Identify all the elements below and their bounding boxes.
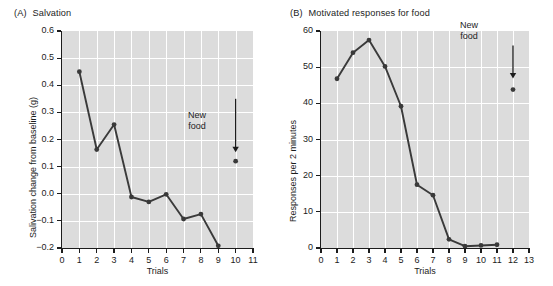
y-axis-tick [316, 67, 320, 68]
y-axis-tick [57, 193, 61, 194]
y-axis-tick [316, 103, 320, 104]
data-point-marker [129, 195, 134, 200]
y-axis-tick [57, 58, 61, 59]
y-axis-tick-label: 0.5 [16, 52, 54, 62]
new-food-data-point [511, 87, 516, 92]
y-axis-tick [316, 30, 320, 31]
figure-root: (A)Salvation Salivation change from base… [0, 0, 553, 286]
data-point-marker [77, 69, 82, 74]
panel-a-tag: (A) [14, 8, 27, 18]
x-axis-tick-label: 13 [518, 255, 540, 265]
data-point-marker [351, 50, 356, 55]
data-point-marker [415, 182, 420, 187]
series-line [337, 40, 497, 246]
y-axis-tick [57, 220, 61, 221]
x-axis-tick [448, 249, 449, 253]
x-axis-tick [496, 249, 497, 253]
y-axis-tick-label: 0.6 [16, 25, 54, 35]
y-axis-tick-label: −0.1 [16, 215, 54, 225]
x-axis-tick [218, 249, 219, 253]
panel-b-title-text: Motivated responses for food [309, 8, 430, 18]
y-axis-tick [57, 139, 61, 140]
y-axis-tick-label: 40 [275, 97, 313, 107]
x-axis-tick [512, 249, 513, 253]
y-axis-tick-label: 0.1 [16, 161, 54, 171]
x-axis-tick [61, 249, 62, 253]
x-axis-tick [416, 249, 417, 253]
panel-b-anno-line1: New [460, 20, 478, 30]
annotation-arrow-head-icon [232, 147, 238, 153]
y-axis-tick-label: 60 [275, 25, 313, 35]
x-axis-tick [384, 249, 385, 253]
panel-a-title-text: Salvation [33, 8, 72, 18]
data-point-marker [181, 217, 186, 222]
x-axis-tick [131, 249, 132, 253]
panel-b-title: (B)Motivated responses for food [290, 8, 430, 18]
panel-a-title: (A)Salvation [14, 8, 71, 18]
data-point-marker [94, 147, 99, 152]
x-axis-tick [400, 249, 401, 253]
x-axis-tick [200, 249, 201, 253]
x-axis-tick [432, 249, 433, 253]
y-axis-tick [316, 175, 320, 176]
x-axis-line [61, 248, 254, 249]
panel-b-new-food-annotation: New food [460, 20, 478, 41]
x-axis-tick [352, 249, 353, 253]
y-axis-tick-label: 0.2 [16, 134, 54, 144]
x-axis-tick [235, 249, 236, 253]
x-axis-tick [96, 249, 97, 253]
data-point-marker [146, 199, 151, 204]
y-axis-tick-label: 30 [275, 134, 313, 144]
new-food-data-point [233, 159, 238, 164]
x-axis-tick [464, 249, 465, 253]
panel-b-tag: (B) [290, 8, 303, 18]
x-axis-tick [183, 249, 184, 253]
y-axis-tick [57, 30, 61, 31]
y-axis-tick-label: −0.2 [16, 242, 54, 252]
data-point-marker [164, 192, 169, 197]
y-axis-line [61, 31, 62, 249]
y-axis-line [320, 31, 321, 249]
x-axis-tick [166, 249, 167, 253]
y-axis-tick [57, 85, 61, 86]
data-point-marker [399, 104, 404, 109]
x-axis-tick [148, 249, 149, 253]
panel-a-plot-area [62, 31, 253, 248]
y-axis-tick-label: 50 [275, 61, 313, 71]
x-axis-tick [480, 249, 481, 253]
series-line [79, 72, 218, 246]
y-axis-tick [57, 166, 61, 167]
panel-a-anno-line1: New [188, 110, 206, 120]
y-axis-tick-label: 0 [275, 242, 313, 252]
panel-a: (A)Salvation Salivation change from base… [0, 0, 277, 286]
y-axis-tick-label: 0.0 [16, 188, 54, 198]
panel-b-x-axis-title: Trials [321, 266, 529, 276]
y-axis-tick-label: 0.3 [16, 106, 54, 116]
x-axis-tick [113, 249, 114, 253]
data-point-marker [112, 122, 117, 127]
data-point-marker [367, 38, 372, 43]
panel-b: (B)Motivated responses for food Response… [276, 0, 553, 286]
y-axis-tick [316, 139, 320, 140]
x-axis-tick [252, 249, 253, 253]
x-axis-tick [336, 249, 337, 253]
panel-a-x-axis-title: Trials [62, 266, 253, 276]
y-axis-tick [316, 211, 320, 212]
y-axis-tick-label: 0.4 [16, 79, 54, 89]
panel-a-new-food-annotation: New food [188, 110, 206, 131]
x-axis-tick [320, 249, 321, 253]
data-point-marker [383, 64, 388, 69]
data-point-marker [199, 212, 204, 217]
y-axis-tick-label: 10 [275, 206, 313, 216]
panel-b-series-layer [321, 31, 529, 248]
data-point-marker [335, 76, 340, 81]
annotation-arrow-head-icon [510, 73, 516, 79]
x-axis-tick-label: 11 [242, 255, 264, 265]
panel-a-series-layer [62, 31, 253, 248]
x-axis-tick [368, 249, 369, 253]
x-axis-tick [79, 249, 80, 253]
panel-b-plot-area [321, 31, 529, 248]
y-axis-tick [57, 112, 61, 113]
x-axis-tick [528, 249, 529, 253]
data-point-marker [431, 193, 436, 198]
